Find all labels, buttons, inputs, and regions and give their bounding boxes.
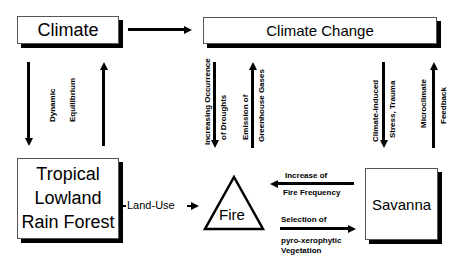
arrow-climate-to-change [128, 28, 184, 31]
arrow-droughts [213, 62, 216, 140]
forest-node: Tropical Lowland Rain Forest [17, 158, 119, 239]
land-use-label: Land-Use [127, 199, 175, 212]
forest-label-3: Rain Forest [21, 213, 114, 232]
savanna-node: Savanna [365, 168, 438, 240]
fire-node [202, 174, 266, 232]
arrowhead-icon [100, 62, 108, 70]
arrowhead-icon [270, 180, 278, 188]
climate-node: Climate [17, 16, 119, 44]
savanna-label: Savanna [372, 195, 431, 214]
arrowhead-icon [348, 225, 356, 233]
arrowhead-icon [191, 202, 199, 210]
microclimate-label-2: Feedback [439, 87, 448, 124]
arrowhead-icon [25, 138, 33, 146]
arrow-microclimate [432, 70, 435, 148]
arrow-forest-to-climate [102, 70, 105, 146]
selection-label-2: pyro-xerophytic [281, 236, 341, 246]
fire-label: Fire [219, 206, 245, 223]
climate-change-label: Climate Change [266, 21, 374, 40]
arrowhead-icon [249, 62, 257, 70]
arrow-fire-frequency [278, 182, 354, 185]
selection-label-1: Selection of [281, 215, 326, 225]
greenhouse-label-2: Greenhouse Gases [257, 69, 266, 142]
arrow-stress [382, 62, 385, 140]
equilibrium-label: Equilibrium [68, 78, 77, 122]
climate-change-node: Climate Change [203, 17, 437, 44]
arrow-selection [280, 227, 348, 230]
fire-frequency-label-2: Fire Frequency [283, 188, 340, 198]
droughts-label-1: Increasing Occurrence [203, 58, 212, 145]
selection-label-3: Vegetation [281, 246, 321, 256]
land-use-tick [121, 205, 126, 207]
arrowhead-icon [430, 62, 438, 70]
forest-label-1: Tropical [36, 165, 99, 184]
dynamic-label: Dynamic [48, 89, 57, 122]
arrow-climate-to-forest [27, 62, 30, 138]
stress-label-1: Climate-induced [371, 80, 380, 142]
greenhouse-label-1: Emission of [241, 95, 250, 140]
arrow-greenhouse [251, 70, 254, 148]
arrowhead-icon [380, 140, 388, 148]
microclimate-label-1: Microclimate [419, 79, 428, 128]
stress-label-2: Stress, Trauma [388, 81, 397, 138]
droughts-label-2: of Droughts [219, 95, 228, 140]
climate-label: Climate [37, 21, 98, 40]
arrowhead-icon [184, 26, 192, 34]
forest-label-2: Lowland [34, 189, 101, 208]
fire-frequency-label-1: Increase of [285, 171, 327, 181]
